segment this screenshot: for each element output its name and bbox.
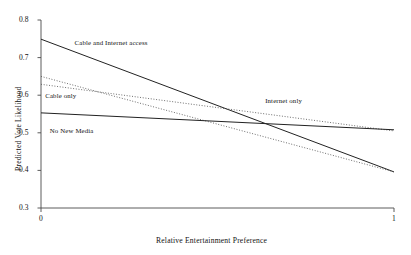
series-label-3: No New Media — [50, 127, 94, 134]
x-tick-label: 1 — [392, 214, 396, 223]
series-label-0: Cable and Internet access — [75, 39, 148, 46]
x-axis-title: Relative Entertainment Preference — [156, 236, 267, 245]
y-axis-title: Predicted Vote Likelihood — [14, 87, 23, 171]
series-line-0 — [41, 39, 394, 172]
series-line-2 — [41, 84, 394, 131]
y-tick-label: 0.3 — [19, 203, 29, 212]
x-tick-label: 0 — [39, 214, 43, 223]
series-label-2: Internet only — [265, 97, 302, 104]
y-tick-label: 0.7 — [19, 53, 29, 62]
series-line-3 — [41, 113, 394, 130]
series-label-1: Cable only — [45, 92, 76, 99]
y-tick-label: 0.8 — [19, 15, 29, 24]
chart-figure: 0.80.70.60.50.40.301Cable and Internet a… — [0, 0, 411, 255]
